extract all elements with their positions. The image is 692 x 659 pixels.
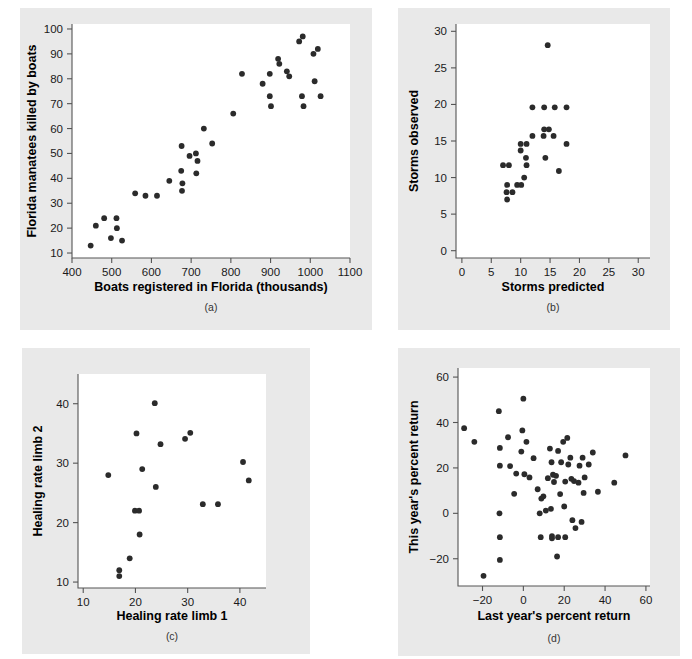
data-point: [461, 425, 467, 431]
data-point: [540, 493, 546, 499]
plot-area-background: [456, 24, 650, 258]
data-point: [590, 450, 596, 456]
y-tick-label: 10: [56, 576, 69, 588]
data-point: [139, 466, 145, 472]
data-point: [504, 189, 510, 195]
data-point: [275, 56, 281, 62]
plot-area-background: [78, 374, 266, 588]
panel-caption: (d): [548, 632, 561, 644]
data-point: [530, 104, 536, 110]
data-point: [553, 473, 559, 479]
y-tick-label: 100: [44, 23, 63, 35]
data-point: [545, 475, 551, 481]
x-tick-label: 400: [62, 266, 81, 278]
data-point: [166, 178, 172, 184]
x-tick-label: 40: [233, 596, 246, 608]
y-tick-label: 20: [436, 462, 449, 474]
data-point: [136, 508, 142, 514]
data-point: [579, 519, 585, 525]
data-point: [562, 534, 568, 540]
data-point: [153, 484, 159, 490]
data-point: [179, 143, 185, 149]
data-point: [623, 453, 629, 459]
y-axis-title: Storms observed: [407, 90, 421, 192]
y-tick-label: 15: [434, 135, 447, 147]
data-point: [93, 223, 99, 229]
data-point: [132, 190, 138, 196]
data-point: [555, 534, 561, 540]
data-point: [548, 506, 554, 512]
data-point: [556, 168, 562, 174]
data-point: [180, 180, 186, 186]
data-point: [535, 486, 541, 492]
data-point: [284, 68, 290, 74]
scatterplot-d: −200204060−200204060Last year's percent …: [398, 348, 680, 656]
data-point: [537, 510, 543, 516]
data-point: [88, 243, 94, 249]
data-point: [134, 431, 140, 437]
data-point: [209, 141, 215, 147]
data-point: [315, 46, 321, 52]
data-point: [611, 480, 617, 486]
data-point: [511, 491, 517, 497]
scatterplot-a: 4005006007008009001000110010203040506070…: [20, 8, 372, 330]
data-point: [557, 491, 563, 497]
data-point: [506, 162, 512, 168]
data-point: [312, 78, 318, 84]
x-tick-label: 700: [182, 266, 201, 278]
data-point: [558, 459, 564, 465]
data-point: [519, 428, 525, 434]
data-point: [299, 93, 305, 99]
x-tick-label: 5: [488, 266, 494, 278]
scatterplot-b: 051015202530051015202530Storms predicted…: [398, 8, 670, 330]
data-point: [116, 567, 122, 573]
data-point: [267, 93, 273, 99]
data-point: [268, 103, 274, 109]
data-point: [527, 475, 533, 481]
x-tick-label: 1100: [338, 266, 363, 278]
y-tick-label: 0: [443, 507, 449, 519]
data-point: [215, 501, 221, 507]
data-point: [521, 175, 527, 181]
panel-b: 051015202530051015202530Storms predicted…: [398, 8, 670, 330]
x-tick-label: 500: [102, 266, 121, 278]
data-point: [576, 480, 582, 486]
data-point: [518, 148, 524, 154]
y-tick-label: 60: [436, 371, 449, 383]
data-point: [521, 471, 527, 477]
data-point: [500, 162, 506, 168]
data-point: [561, 504, 567, 510]
x-tick-label: 10: [77, 596, 90, 608]
data-point: [239, 71, 245, 77]
data-point: [520, 396, 526, 402]
x-tick-label: 20: [129, 596, 142, 608]
y-axis-title: Healing rate limb 2: [31, 425, 45, 536]
data-point: [178, 168, 184, 174]
data-point: [531, 455, 537, 461]
x-tick-label: 800: [221, 266, 240, 278]
data-point: [524, 162, 530, 168]
data-point: [481, 573, 487, 579]
x-tick-label: 60: [640, 594, 653, 606]
data-point: [311, 51, 317, 57]
data-point: [524, 439, 530, 445]
y-tick-label: 30: [56, 457, 69, 469]
y-tick-label: 50: [50, 147, 63, 159]
data-point: [496, 408, 502, 414]
data-point: [182, 436, 188, 442]
x-tick-label: 25: [602, 266, 615, 278]
data-point: [497, 445, 503, 451]
data-point: [200, 501, 206, 507]
data-point: [143, 193, 149, 199]
data-point: [541, 133, 547, 139]
y-tick-label: −20: [429, 553, 449, 565]
y-tick-label: 0: [441, 245, 447, 257]
data-point: [300, 34, 306, 40]
data-point: [105, 472, 111, 478]
y-tick-label: 10: [50, 247, 63, 259]
panel-a: 4005006007008009001000110010203040506070…: [20, 8, 372, 330]
data-point: [564, 104, 570, 110]
data-point: [240, 459, 246, 465]
data-point: [195, 158, 201, 164]
data-point: [595, 489, 601, 495]
